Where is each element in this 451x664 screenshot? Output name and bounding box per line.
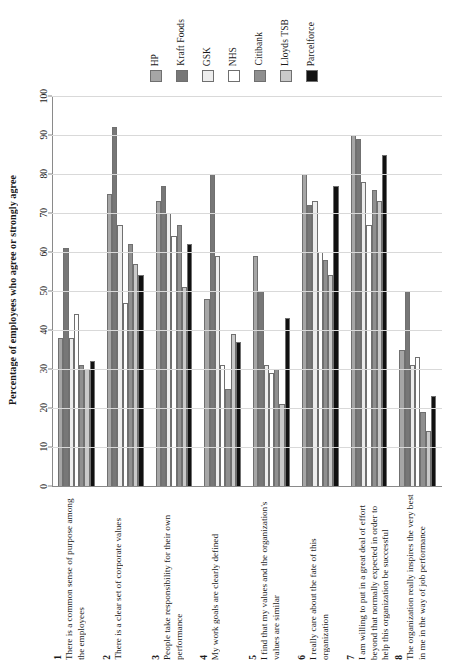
legend-entry: Kraft Foods (176, 19, 188, 82)
bar (431, 396, 436, 486)
gridline (52, 291, 442, 292)
legend-entry: Parcelforce (306, 22, 318, 82)
legend-label: Parcelforce (307, 22, 317, 66)
category-text: My work goals are clearly defined (210, 534, 244, 660)
y-axis-tick-value: 50 (40, 286, 50, 296)
legend-swatch-icon (202, 70, 214, 82)
bar (187, 244, 192, 486)
category-number: 8 (395, 655, 405, 660)
bar (138, 275, 143, 486)
bar (236, 342, 241, 486)
category-label: 3People take responsibility for their ow… (150, 490, 199, 662)
legend-label: Kraft Foods (177, 19, 187, 66)
y-axis-tick-value: 40 (40, 325, 50, 335)
y-axis-title-text: Percentage of employees who agree or str… (7, 175, 18, 405)
category-text: People take responsibility for their own… (162, 492, 196, 660)
y-axis-tick-value: 30 (40, 364, 50, 374)
category-number: 6 (298, 655, 308, 660)
category-text: I am willing to put in a great deal of e… (357, 492, 391, 660)
legend-label: GSK (203, 47, 213, 66)
y-axis-tick-value: 0 (40, 484, 50, 489)
legend-swatch-icon (228, 70, 240, 82)
bar (382, 155, 387, 487)
legend-swatch-icon (280, 70, 292, 82)
legend-label: Citibank (255, 32, 265, 66)
legend-swatch-icon (176, 70, 188, 82)
y-axis-title: Percentage of employees who agree or str… (4, 95, 20, 485)
category-number: 3 (152, 655, 162, 660)
y-axis-tick-value: 70 (40, 208, 50, 218)
category-label: 8The organization really inspires the ve… (393, 490, 442, 662)
gridline (52, 252, 442, 253)
category-label: 1There is a common sense of purpose amon… (52, 490, 101, 662)
category-number: 2 (103, 655, 113, 660)
legend-swatch-icon (306, 70, 318, 82)
legend-entry: Citibank (254, 32, 266, 82)
chart-legend: HPKraft FoodsGSKNHSCitibankLloyds TSBPar… (150, 4, 400, 82)
gridline (52, 447, 442, 448)
gridline (52, 330, 442, 331)
x-axis-category-labels: 1There is a common sense of purpose amon… (52, 490, 442, 662)
y-axis-tick-value: 60 (40, 247, 50, 257)
legend-label: NHS (229, 47, 239, 66)
category-label: 7I am willing to put in a great deal of … (345, 490, 394, 662)
bar (285, 318, 290, 486)
category-number: 1 (54, 655, 64, 660)
category-text: There is a clear set of corporate values (113, 518, 147, 660)
y-axis-tick-value: 20 (40, 403, 50, 413)
category-label: 4My work goals are clearly defined (198, 490, 247, 662)
legend-entry: Lloyds TSB (280, 19, 292, 82)
category-text: There is a common sense of purpose among… (64, 492, 98, 660)
legend-entry: GSK (202, 47, 214, 82)
legend-label: HP (151, 54, 161, 66)
category-text: I find that my values and the organizati… (259, 492, 293, 660)
category-label: 5I find that my values and the organizat… (247, 490, 296, 662)
y-axis-tick-value: 10 (40, 442, 50, 452)
plot-area: 0102030405060708090100 (52, 96, 442, 486)
legend-entry: NHS (228, 47, 240, 82)
y-axis-tick-value: 90 (40, 130, 50, 140)
legend-label: Lloyds TSB (281, 19, 291, 66)
category-text: I really care about the fate of this org… (308, 492, 342, 660)
bar (333, 186, 338, 486)
gridline (52, 135, 442, 136)
legend-entry: HP (150, 54, 162, 82)
category-text: The organization really inspires the ver… (405, 492, 439, 660)
category-number: 5 (249, 655, 259, 660)
gridline (52, 486, 442, 487)
gridline (52, 174, 442, 175)
legend-swatch-icon (150, 70, 162, 82)
y-axis-tick-value: 80 (40, 169, 50, 179)
gridline (52, 369, 442, 370)
gridline (52, 408, 442, 409)
gridline (52, 213, 442, 214)
bar-chart: HPKraft FoodsGSKNHSCitibankLloyds TSBPar… (0, 0, 451, 664)
gridline (52, 96, 442, 97)
bar (90, 361, 95, 486)
legend-swatch-icon (254, 70, 266, 82)
category-number: 7 (347, 655, 357, 660)
category-number: 4 (200, 655, 210, 660)
category-label: 2There is a clear set of corporate value… (101, 490, 150, 662)
category-label: 6I really care about the fate of this or… (296, 490, 345, 662)
y-axis-tick-value: 100 (40, 89, 50, 103)
